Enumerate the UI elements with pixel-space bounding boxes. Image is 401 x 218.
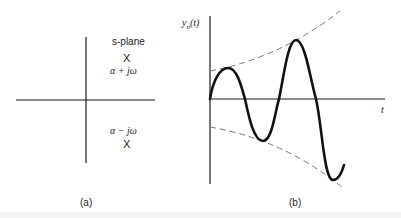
panel-b: yn(t) t (b) — [181, 11, 385, 208]
figure-canvas: s-plane X α + jω α − jω X (a) yn(t) t (b… — [0, 0, 401, 218]
y-axis-label: yn(t) — [181, 17, 200, 31]
s-plane-label: s-plane — [112, 36, 145, 47]
panel-a: s-plane X α + jω α − jω X (a) — [16, 36, 155, 208]
pole-lower-marker: X — [123, 138, 131, 150]
response-curve — [210, 40, 344, 180]
lower-envelope — [210, 127, 343, 188]
pole-upper-label: α + jω — [110, 65, 137, 76]
t-axis-label: t — [381, 104, 384, 115]
caption-b: (b) — [289, 197, 301, 208]
upper-envelope — [210, 11, 340, 71]
pole-upper-marker: X — [123, 52, 131, 64]
pole-lower-label: α − jω — [110, 125, 137, 136]
caption-a: (a) — [80, 197, 92, 208]
